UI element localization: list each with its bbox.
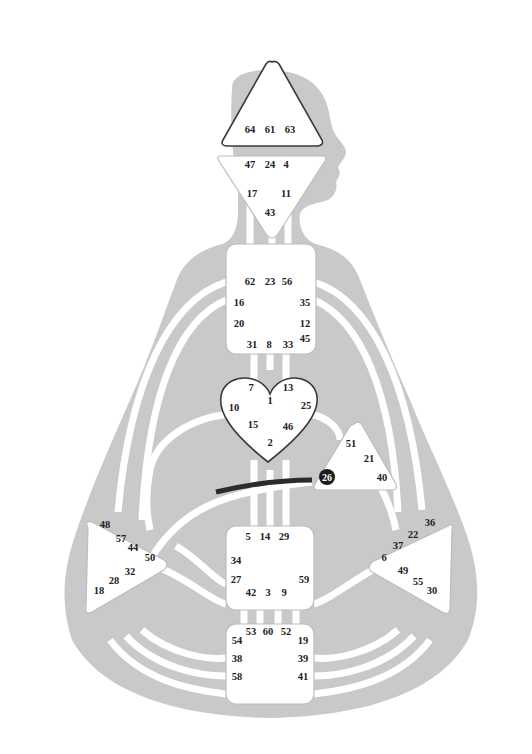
svg-text:19: 19: [298, 635, 309, 646]
svg-text:22: 22: [408, 529, 419, 540]
svg-text:21: 21: [364, 453, 375, 464]
svg-text:48: 48: [100, 519, 111, 530]
svg-text:28: 28: [109, 575, 120, 586]
svg-text:26: 26: [322, 472, 332, 483]
svg-text:4: 4: [283, 159, 289, 170]
svg-text:11: 11: [281, 188, 291, 199]
svg-text:32: 32: [125, 566, 136, 577]
svg-text:5: 5: [245, 531, 250, 542]
svg-text:3: 3: [265, 587, 270, 598]
svg-text:9: 9: [281, 587, 286, 598]
svg-text:40: 40: [377, 472, 388, 483]
svg-text:58: 58: [232, 671, 243, 682]
svg-text:18: 18: [94, 585, 105, 596]
svg-text:16: 16: [234, 297, 245, 308]
svg-text:55: 55: [413, 576, 424, 587]
bodygraph: 64 61 63 47 24 4 17 11 43 62 23 56 16 35…: [0, 0, 532, 754]
svg-text:41: 41: [298, 671, 309, 682]
svg-text:35: 35: [300, 297, 311, 308]
svg-text:36: 36: [425, 517, 436, 528]
gates-head: 64 61 63: [245, 124, 296, 135]
svg-text:23: 23: [265, 276, 276, 287]
svg-text:39: 39: [298, 653, 309, 664]
svg-text:15: 15: [248, 419, 259, 430]
svg-text:38: 38: [232, 653, 243, 664]
svg-text:27: 27: [231, 574, 242, 585]
svg-text:30: 30: [427, 585, 438, 596]
svg-text:37: 37: [393, 540, 404, 551]
svg-text:44: 44: [128, 542, 139, 553]
svg-text:46: 46: [283, 421, 294, 432]
gate: 61: [265, 124, 276, 135]
svg-text:6: 6: [381, 552, 386, 563]
svg-text:57: 57: [116, 533, 127, 544]
svg-text:29: 29: [279, 531, 290, 542]
svg-text:49: 49: [398, 565, 409, 576]
svg-text:13: 13: [283, 382, 294, 393]
svg-text:53: 53: [246, 626, 257, 637]
svg-text:2: 2: [267, 437, 272, 448]
svg-text:8: 8: [266, 339, 271, 350]
svg-text:56: 56: [282, 276, 293, 287]
svg-text:10: 10: [229, 402, 240, 413]
svg-text:54: 54: [232, 635, 243, 646]
svg-text:43: 43: [265, 207, 276, 218]
svg-text:25: 25: [301, 400, 312, 411]
svg-text:17: 17: [247, 188, 258, 199]
svg-text:12: 12: [300, 318, 311, 329]
svg-text:52: 52: [281, 626, 292, 637]
svg-text:34: 34: [231, 555, 242, 566]
svg-text:24: 24: [265, 159, 276, 170]
svg-text:1: 1: [267, 395, 272, 406]
gate: 63: [285, 124, 296, 135]
svg-text:51: 51: [346, 438, 357, 449]
svg-text:7: 7: [248, 382, 253, 393]
gate: 64: [245, 124, 256, 135]
svg-text:20: 20: [234, 318, 245, 329]
svg-text:33: 33: [283, 339, 294, 350]
svg-text:42: 42: [246, 587, 257, 598]
svg-text:45: 45: [300, 333, 311, 344]
svg-text:31: 31: [247, 339, 258, 350]
svg-text:59: 59: [299, 574, 310, 585]
svg-text:47: 47: [245, 159, 256, 170]
svg-text:60: 60: [263, 626, 274, 637]
svg-text:62: 62: [245, 276, 256, 287]
svg-text:14: 14: [260, 531, 271, 542]
svg-text:50: 50: [145, 552, 156, 563]
